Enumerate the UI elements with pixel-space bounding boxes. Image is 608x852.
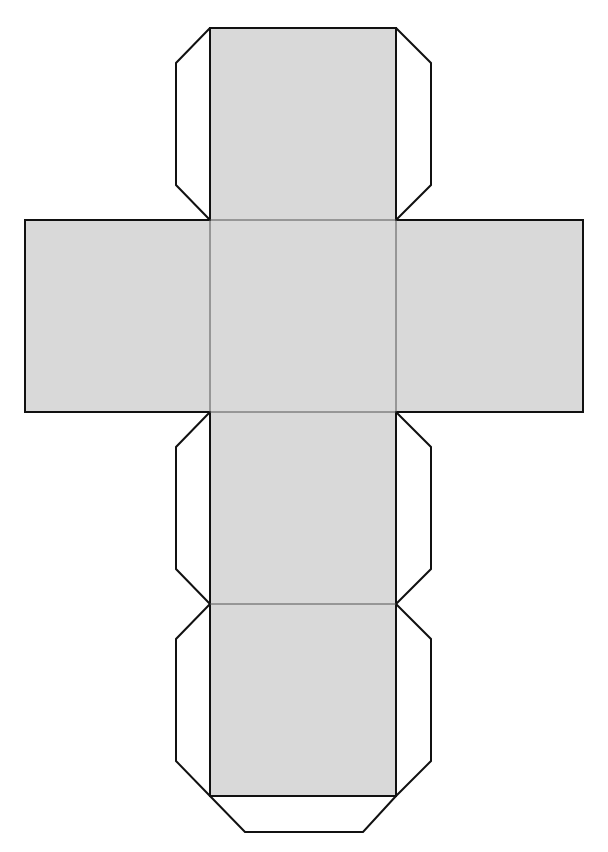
tab-lower-right	[396, 412, 431, 604]
face-lower	[210, 412, 396, 604]
tab-bottom-right	[396, 604, 431, 796]
tab-top-left	[176, 28, 210, 220]
tab-top-right	[396, 28, 431, 220]
face-right	[396, 220, 583, 412]
face-bottom	[210, 604, 396, 796]
tab-bottom-left	[176, 604, 210, 796]
cube-net-diagram	[0, 0, 608, 852]
face-center	[210, 220, 396, 412]
tab-bottom	[210, 796, 396, 832]
tab-lower-left	[176, 412, 210, 604]
face-left	[25, 220, 210, 412]
face-top	[210, 28, 396, 220]
